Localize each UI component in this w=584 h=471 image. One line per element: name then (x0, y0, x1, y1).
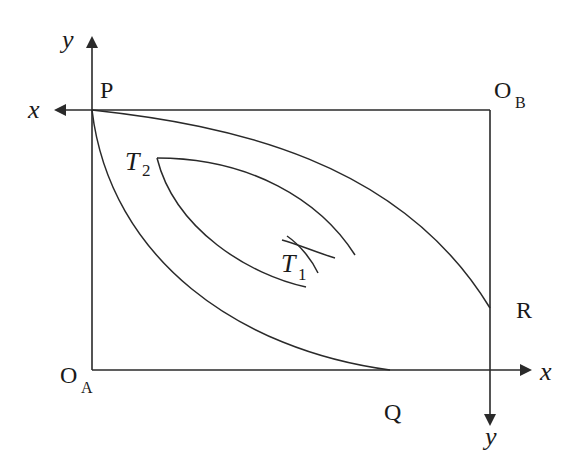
t2-label: T (125, 147, 141, 176)
origin-a-subscript: A (81, 379, 93, 396)
indifference-curve-b-outer (92, 110, 490, 308)
point-r-label: R (516, 297, 532, 323)
edgeworth-box-diagram: y x P O B T 2 T 1 R O A x Q y (0, 0, 584, 471)
axis-a-x-label: x (539, 357, 552, 386)
origin-a-label: O (60, 362, 77, 388)
axis-a-y-label: y (59, 25, 74, 54)
t2-subscript: 2 (142, 161, 151, 180)
indifference-curve-t2-upper (157, 158, 355, 255)
axis-b-x-label: x (27, 95, 40, 124)
origin-b-label: O (494, 77, 511, 103)
axis-b-y-label: y (482, 422, 497, 451)
point-p-label: P (100, 77, 113, 103)
origin-b-subscript: B (515, 94, 526, 111)
point-q-label: Q (384, 399, 401, 425)
t1-label: T (281, 249, 297, 278)
t1-subscript: 1 (298, 265, 307, 284)
